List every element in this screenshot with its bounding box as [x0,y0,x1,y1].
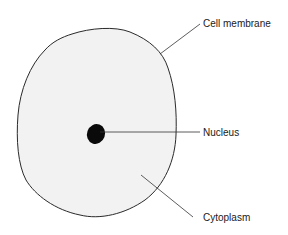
cell-diagram [0,0,288,235]
cell-membrane-leader-line [160,24,200,54]
cell-membrane-label: Cell membrane [203,18,271,30]
cell-membrane-outline [17,28,176,216]
cytoplasm-label: Cytoplasm [203,212,250,224]
nucleus-label: Nucleus [203,127,239,139]
